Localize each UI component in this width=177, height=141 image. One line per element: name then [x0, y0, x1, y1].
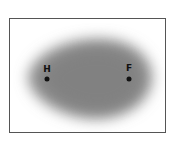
nucleus-h-dot [45, 77, 50, 82]
nucleus-f-dot [127, 77, 132, 82]
atom-label-f: F [126, 64, 132, 73]
electron-density-cloud [10, 19, 165, 132]
diagram-frame: H F [9, 18, 166, 133]
atom-label-h: H [43, 65, 51, 74]
